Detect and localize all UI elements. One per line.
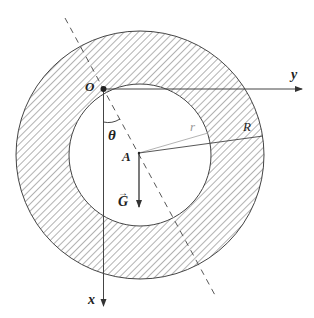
label-y-axis: y: [291, 68, 297, 82]
label-gravity: → G: [118, 195, 128, 209]
label-theta: θ: [108, 128, 116, 143]
origin-point: [101, 86, 107, 92]
label-outer-radius: R: [243, 120, 251, 133]
label-origin: O: [85, 80, 94, 93]
annulus-diagram: [0, 0, 314, 318]
inner-circle: [69, 84, 211, 226]
label-inner-radius: r: [190, 120, 195, 133]
label-center-A: A: [122, 150, 131, 163]
hatched-ring: [0, 0, 314, 318]
center-point: [138, 152, 140, 154]
vector-arrow-icon: →: [118, 188, 128, 198]
label-x-axis: x: [88, 293, 95, 307]
